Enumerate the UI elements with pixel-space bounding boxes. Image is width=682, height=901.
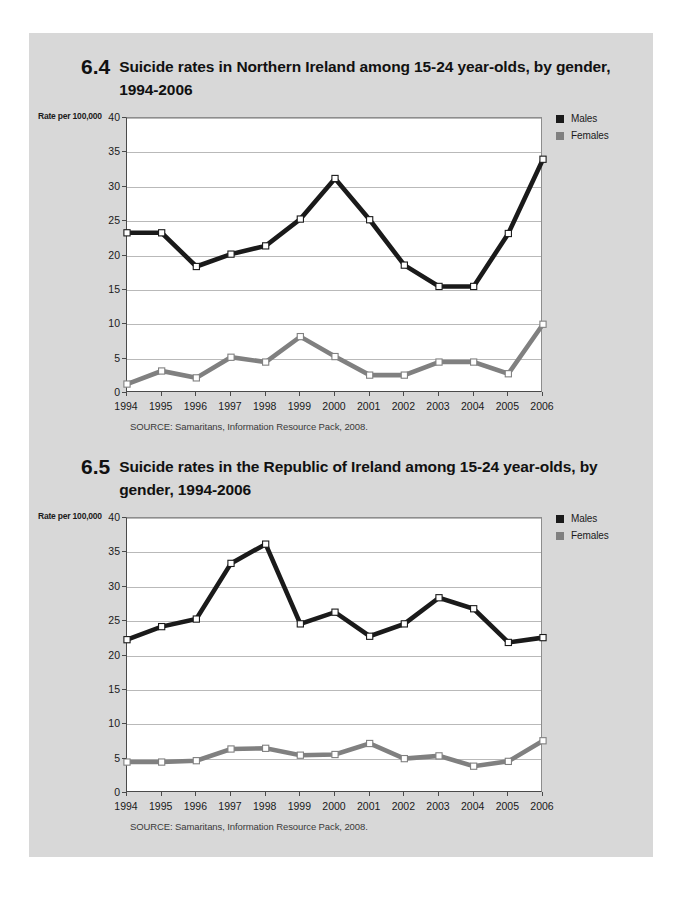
data-point-marker [124, 381, 130, 387]
y-axis-tick-label: 30 [96, 180, 120, 192]
y-axis-tick-label: 35 [96, 545, 120, 557]
data-point-marker [228, 746, 234, 752]
data-point-marker [540, 156, 546, 162]
x-axis-tick-mark [230, 792, 231, 796]
legend-item-males: Males [556, 113, 609, 124]
x-axis-tick-label: 2006 [530, 400, 553, 412]
x-axis-tick-mark [334, 392, 335, 396]
data-point-marker [228, 354, 234, 360]
y-axis-tick-label: 15 [96, 283, 120, 295]
y-axis-tick-mark [122, 758, 126, 759]
data-point-marker [436, 753, 442, 759]
data-point-marker [367, 372, 373, 378]
y-axis-tick-label: 10 [96, 317, 120, 329]
x-axis-tick-mark [369, 392, 370, 396]
x-axis-tick-label: 1998 [253, 400, 276, 412]
data-point-marker [193, 616, 199, 622]
data-point-marker [332, 175, 338, 181]
y-axis-tick-mark [122, 323, 126, 324]
data-point-marker [436, 595, 442, 601]
x-axis-tick-label: 2000 [322, 800, 345, 812]
data-point-marker [505, 758, 511, 764]
x-axis-tick-mark [161, 792, 162, 796]
data-point-marker [263, 359, 269, 365]
y-axis-tick-label: 0 [96, 386, 120, 398]
x-axis-tick-mark [507, 792, 508, 796]
data-point-marker [297, 216, 303, 222]
data-point-marker [159, 368, 165, 374]
y-axis-tick-mark [122, 358, 126, 359]
legend-swatch-icon [556, 132, 564, 140]
legend-item-females: Females [556, 530, 609, 541]
source-note: SOURCE: Samaritans, Information Resource… [130, 421, 368, 432]
data-point-marker [471, 606, 477, 612]
y-axis-tick-label: 10 [96, 717, 120, 729]
data-point-marker [124, 637, 130, 643]
plot-area [126, 117, 542, 392]
data-point-marker [159, 230, 165, 236]
x-axis-tick-label: 1997 [218, 400, 241, 412]
x-axis-tick-mark [265, 392, 266, 396]
x-axis-tick-label: 1999 [288, 800, 311, 812]
x-axis-tick-mark [265, 792, 266, 796]
data-point-marker [540, 738, 546, 744]
y-axis-tick-mark [122, 186, 126, 187]
data-point-marker [193, 758, 199, 764]
data-point-marker [297, 621, 303, 627]
x-axis-tick-label: 2003 [426, 400, 449, 412]
x-axis-tick-label: 2005 [496, 800, 519, 812]
x-axis-tick-label: 1996 [184, 400, 207, 412]
x-axis-tick-mark [473, 792, 474, 796]
data-point-marker [505, 230, 511, 236]
data-point-marker [332, 353, 338, 359]
x-axis-tick-label: 2004 [461, 400, 484, 412]
y-axis-tick-mark [122, 255, 126, 256]
x-axis-tick-mark [126, 792, 127, 796]
y-axis-tick-mark [122, 689, 126, 690]
x-axis-tick-mark [299, 392, 300, 396]
x-axis-tick-label: 1995 [149, 400, 172, 412]
plot-area [126, 517, 542, 792]
x-axis-tick-mark [195, 392, 196, 396]
data-point-marker [367, 740, 373, 746]
x-axis-tick-mark [473, 392, 474, 396]
x-axis-tick-mark [542, 792, 543, 796]
x-axis-tick-mark [438, 792, 439, 796]
data-point-marker [263, 541, 269, 547]
legend-label: Females [571, 130, 609, 141]
data-point-marker [159, 624, 165, 630]
data-point-marker [471, 283, 477, 289]
data-point-marker [367, 217, 373, 223]
data-point-marker [193, 263, 199, 269]
x-axis-tick-mark [195, 792, 196, 796]
y-axis-tick-label: 0 [96, 786, 120, 798]
y-axis-tick-label: 5 [96, 752, 120, 764]
chart-legend: MalesFemales [556, 513, 609, 547]
series-line-males [127, 544, 543, 642]
data-point-marker [436, 283, 442, 289]
y-axis-tick-mark [122, 723, 126, 724]
data-point-marker [436, 359, 442, 365]
y-axis-tick-mark [122, 151, 126, 152]
x-axis-tick-mark [126, 392, 127, 396]
series-layer [127, 118, 543, 393]
data-point-marker [263, 243, 269, 249]
data-point-marker [124, 230, 130, 236]
legend-swatch-icon [556, 515, 564, 523]
y-axis-tick-label: 30 [96, 580, 120, 592]
data-point-marker [505, 639, 511, 645]
data-point-marker [367, 633, 373, 639]
data-point-marker [401, 262, 407, 268]
x-axis-tick-label: 1994 [114, 400, 137, 412]
legend-label: Males [571, 113, 597, 124]
x-axis-tick-mark [230, 392, 231, 396]
y-axis-tick-label: 15 [96, 683, 120, 695]
y-axis-tick-label: 35 [96, 145, 120, 157]
data-point-marker [505, 371, 511, 377]
legend-item-females: Females [556, 130, 609, 141]
x-axis-tick-mark [369, 792, 370, 796]
legend-item-males: Males [556, 513, 609, 524]
x-axis-tick-mark [438, 392, 439, 396]
data-point-marker [401, 756, 407, 762]
data-point-marker [332, 751, 338, 757]
